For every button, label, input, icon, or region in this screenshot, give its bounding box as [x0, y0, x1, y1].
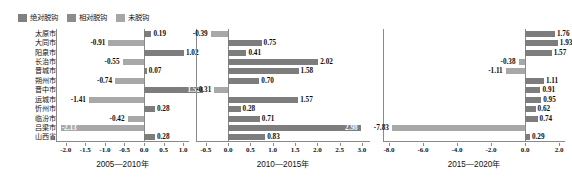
bar-row: 1.02 [56, 48, 189, 57]
bar-朔州市 [115, 78, 144, 84]
tick-label: -0.5 [200, 146, 211, 155]
legend-swatch-icon [18, 14, 27, 22]
bar-value-label: 0.29 [532, 133, 545, 141]
category-label-2: 阳泉市 [18, 48, 56, 57]
category-label-10: 吕梁市 [18, 123, 56, 132]
tick-label: 0.0 [521, 146, 530, 155]
bar-晋城市 [228, 68, 298, 74]
legend-item-not-decoupled: 未脱钩 [116, 14, 149, 22]
bar-row: 1.76 [383, 29, 565, 38]
bar-value-label: 1.76 [557, 30, 570, 38]
bar-row: 0.28 [196, 104, 370, 113]
bar-晋中市 [214, 87, 228, 93]
legend-label: 相对脱钩 [79, 14, 107, 22]
bar-太原市 [525, 31, 555, 37]
bar-row: 2.02 [196, 57, 370, 66]
bar-row: 0.83 [196, 133, 370, 142]
tick-label: -1.0 [99, 146, 110, 155]
bar-rows: -0.390.750.412.021.580.70-0.311.570.280.… [196, 29, 370, 142]
tick-label: 3.0 [358, 146, 367, 155]
bar-row: -0.31 [196, 86, 370, 95]
bar-运城市 [228, 97, 298, 103]
bar-row: 1.57 [383, 48, 565, 57]
bar-晋城市 [144, 68, 147, 74]
bar-value-label: 0.83 [267, 133, 280, 141]
bar-value-label: 0.28 [157, 105, 170, 113]
bar-长治市 [519, 59, 525, 65]
bar-长治市 [123, 59, 145, 65]
bar-row: 0.19 [56, 29, 189, 38]
bar-value-label: -0.74 [97, 77, 112, 85]
legend-swatch-icon [67, 14, 76, 22]
tick-label: -1.5 [80, 146, 91, 155]
tick-label: 0.5 [246, 146, 255, 155]
category-label-5: 朔州市 [18, 76, 56, 85]
bar-阳泉市 [525, 50, 552, 56]
bar-value-label: 0.91 [543, 86, 556, 94]
chart-panel-2: -0.390.750.412.021.580.70-0.311.570.280.… [196, 29, 370, 142]
bar-row: 0.07 [56, 67, 189, 76]
bar-value-label: 1.58 [301, 67, 314, 75]
panel-title: 2005—2010年 [56, 160, 189, 170]
x-axis-ticks: -8.0-6.0-4.0-2.00.02.0 [383, 143, 565, 154]
legend-swatch-icon [116, 14, 125, 22]
bar-长治市 [228, 59, 318, 65]
category-axis-labels: 太原市大同市阳泉市长治市晋城市朔州市晋中市运城市忻州市临汾市吕梁市山西省 [18, 29, 56, 142]
bar-value-label: 0.41 [248, 49, 261, 57]
tick-label: 0.0 [224, 146, 233, 155]
bar-row: 0.28 [56, 133, 189, 142]
bar-row: 0.28 [56, 104, 189, 113]
chart-legend: 绝对脱钩相对脱钩未脱钩 [18, 11, 178, 25]
bar-row: 0.62 [383, 104, 565, 113]
bar-value-label: 0.70 [261, 77, 274, 85]
bar-晋城市 [506, 68, 525, 74]
bar-value-label: 0.74 [540, 115, 553, 123]
bar-山西省 [525, 134, 530, 140]
bar-value-label: -0.42 [110, 115, 125, 123]
bar-value-label: 0.07 [149, 67, 162, 75]
category-label-1: 大同市 [18, 38, 56, 47]
tick-label: -2.0 [485, 146, 496, 155]
bar-value-label: -0.31 [196, 86, 211, 94]
bar-row: -2.13 [56, 123, 189, 132]
category-label-6: 晋中市 [18, 86, 56, 95]
bar-运城市 [89, 97, 144, 103]
bar-value-label: -0.91 [90, 39, 105, 47]
category-label-0: 太原市 [18, 29, 56, 38]
bar-rows: 0.19-0.911.02-0.550.07-0.741.52-1.410.28… [56, 29, 189, 142]
bar-row: 1.57 [196, 95, 370, 104]
bar-value-label: 0.28 [157, 133, 170, 141]
bar-row: 1.58 [196, 67, 370, 76]
bar-row: -1.41 [56, 95, 189, 104]
category-label-7: 运城市 [18, 95, 56, 104]
bar-吕梁市 [228, 125, 361, 131]
bar-阳泉市 [228, 50, 246, 56]
bar-row: -7.83 [383, 123, 565, 132]
tick-label: -2.0 [60, 146, 71, 155]
bar-value-label: 2.02 [320, 58, 333, 66]
bar-row: 2.98 [196, 123, 370, 132]
bar-临汾市 [128, 116, 144, 122]
bar-吕梁市 [392, 125, 525, 131]
bar-row: -0.55 [56, 57, 189, 66]
bar-row: 0.91 [383, 86, 565, 95]
bar-忻州市 [228, 106, 240, 112]
bar-row: -0.42 [56, 114, 189, 123]
tick-label: 1.0 [179, 146, 188, 155]
bar-大同市 [108, 40, 144, 46]
tick-label: 1.5 [291, 146, 300, 155]
bar-value-label: 0.95 [543, 96, 556, 104]
bar-row: -0.91 [56, 38, 189, 47]
bar-value-label: -2.13 [62, 124, 77, 132]
bar-row: -0.74 [56, 76, 189, 85]
bar-value-label: 1.57 [300, 96, 313, 104]
bar-row: -0.38 [383, 57, 565, 66]
bar-row: -1.11 [383, 67, 565, 76]
bar-rows: 1.761.931.57-0.38-1.111.110.910.950.620.… [383, 29, 565, 142]
bar-value-label: -0.55 [105, 58, 120, 66]
tick-label: 1.0 [268, 146, 277, 155]
bar-row: 0.41 [196, 48, 370, 57]
bar-row: 0.75 [196, 38, 370, 47]
bar-value-label: -0.38 [501, 58, 516, 66]
